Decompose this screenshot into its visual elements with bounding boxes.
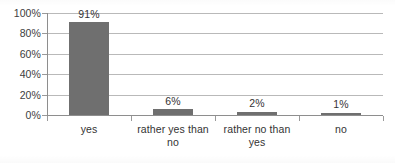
x-axis-label-line1: yes xyxy=(47,123,131,136)
bar-series: 91% 6% 2% 1% xyxy=(47,13,383,115)
x-axis-tick xyxy=(131,116,132,121)
bar-group-yes: 91% xyxy=(47,13,131,115)
y-axis-labels: 100% 80% 60% 40% 20% 0% xyxy=(0,0,44,163)
bar-group-no: 1% xyxy=(299,13,383,115)
y-axis-tick-label: 20% xyxy=(20,90,41,101)
x-axis-label-line1: rather no than xyxy=(215,123,299,136)
x-axis-tick xyxy=(215,116,216,121)
bar-value-yes: 91% xyxy=(78,9,99,20)
x-axis-labels: yes rather yes than no rather no than ye… xyxy=(47,123,383,159)
bar-group-rather-yes-than-no: 6% xyxy=(131,13,215,115)
y-axis-tick-label: 40% xyxy=(20,69,41,80)
x-axis-label-no: no xyxy=(299,123,383,136)
y-axis-tick-label: 60% xyxy=(20,49,41,60)
y-axis-tick-label: 80% xyxy=(20,28,41,39)
y-axis-tick-label: 0% xyxy=(26,110,41,121)
x-axis-label-line1: no xyxy=(299,123,383,136)
x-axis-label-line2: yes xyxy=(215,136,299,149)
bar-value-no: 1% xyxy=(333,99,348,110)
x-axis-label-yes: yes xyxy=(47,123,131,136)
x-axis-label-line2: no xyxy=(131,136,215,149)
bar-yes[interactable] xyxy=(69,22,109,115)
x-axis-tick xyxy=(299,116,300,121)
x-axis-label-rather-yes-than-no: rather yes than no xyxy=(131,123,215,149)
bar-value-rather-no-than-yes: 2% xyxy=(249,98,264,109)
bar-value-rather-yes-than-no: 6% xyxy=(165,96,180,107)
y-axis-tick-label: 100% xyxy=(14,8,41,19)
x-axis-label-rather-no-than-yes: rather no than yes xyxy=(215,123,299,149)
bar-chart: 100% 80% 60% 40% 20% 0% 91% 6% 2% xyxy=(0,0,395,163)
x-axis-label-line1: rather yes than xyxy=(131,123,215,136)
bar-group-rather-no-than-yes: 2% xyxy=(215,13,299,115)
x-axis-tick xyxy=(383,116,384,121)
x-axis-tick xyxy=(47,116,48,121)
